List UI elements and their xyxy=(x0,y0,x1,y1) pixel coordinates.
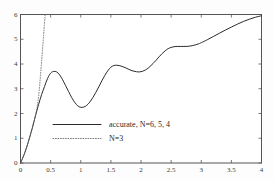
x-tick-label-6: 3 xyxy=(200,167,204,174)
figure-container: 00.511.522.533.54 0123456 accurate, N=6,… xyxy=(0,0,274,180)
x-tick-label-4: 2 xyxy=(139,167,143,174)
y-tick-label-1: 1 xyxy=(14,135,18,142)
y-tick-label-6: 6 xyxy=(14,11,18,18)
legend-label-0: accurate, N=6, 5, 4 xyxy=(109,121,170,129)
y-tick-label-2: 2 xyxy=(14,110,18,117)
legend-label-1: N=3 xyxy=(109,135,123,143)
x-tick-label-5: 2.5 xyxy=(167,167,176,174)
y-tick-label-0: 0 xyxy=(14,160,18,167)
x-tick-label-8: 4 xyxy=(260,167,264,174)
x-tick-label-7: 3.5 xyxy=(227,167,236,174)
y-tick-label-3: 3 xyxy=(14,85,18,92)
x-tick-label-3: 1.5 xyxy=(107,167,116,174)
chart-plot xyxy=(0,0,274,180)
y-tick-label-5: 5 xyxy=(14,36,18,43)
plot-frame xyxy=(21,15,262,164)
x-tick-label-1: 0.5 xyxy=(46,167,55,174)
x-tick-label-2: 1 xyxy=(79,167,83,174)
x-tick-label-0: 0 xyxy=(19,167,23,174)
y-tick-label-4: 4 xyxy=(14,61,18,68)
